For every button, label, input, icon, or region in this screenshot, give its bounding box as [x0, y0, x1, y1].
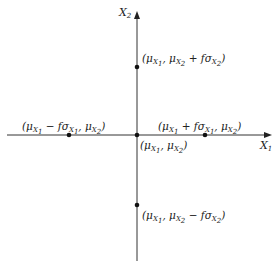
label-origin-point: (μX1, μX2): [140, 140, 187, 155]
label-left-point: (μX1 − fσX1, μX2): [22, 121, 105, 136]
point-origin: [135, 133, 140, 138]
y-axis-arrowhead-icon: [134, 11, 140, 19]
y-axis-label-base: X: [119, 6, 127, 19]
x-axis-arrowhead-icon: [264, 132, 272, 138]
x-axis-label-base: X: [260, 139, 268, 152]
label-top-point: (μX1, μX2 + fσX2): [142, 53, 225, 68]
y-axis-label: X2: [119, 7, 131, 20]
y-axis-label-sub: 2: [127, 12, 131, 20]
label-right-point: (μX1 + fσX1, μX2): [158, 121, 241, 136]
x-axis-label-sub: 1: [268, 145, 272, 153]
x-axis-label: X1: [260, 140, 272, 153]
point-top: [135, 65, 140, 70]
point-bottom: [135, 203, 140, 208]
label-bottom-point: (μX1, μX2 − fσX2): [142, 210, 225, 225]
